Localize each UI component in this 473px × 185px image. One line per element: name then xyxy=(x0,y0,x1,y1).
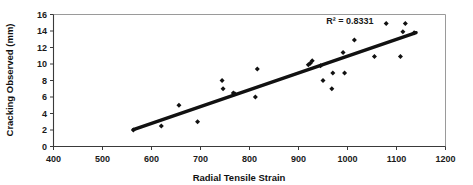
x-tick-label: 500 xyxy=(95,154,110,164)
y-tick-label: 4 xyxy=(42,109,47,119)
r-squared-annotation-group: R² = 0.8331 xyxy=(326,16,373,26)
x-axis-title: Radial Tensile Strain xyxy=(193,172,286,183)
y-tick-label: 2 xyxy=(42,125,47,135)
x-tick-label: 1100 xyxy=(387,154,407,164)
r-squared-label: R² = 0.8331 xyxy=(326,16,373,26)
y-axis-title: Cracking Observed (mm) xyxy=(4,24,15,137)
x-tick-label: 700 xyxy=(193,154,208,164)
x-axis-tick-labels: 400500600700800900100011001200 xyxy=(46,154,456,164)
chart-canvas: 400500600700800900100011001200 024681012… xyxy=(0,0,473,185)
y-tick-label: 16 xyxy=(37,10,47,20)
y-tick-label: 6 xyxy=(42,92,47,102)
y-tick-label: 0 xyxy=(42,142,47,152)
x-tick-label: 600 xyxy=(144,154,159,164)
x-tick-label: 800 xyxy=(242,154,257,164)
y-tick-label: 10 xyxy=(37,59,47,69)
x-tick-label: 900 xyxy=(291,154,306,164)
scatter-chart-figure: 400500600700800900100011001200 024681012… xyxy=(0,0,473,185)
x-tick-label: 1200 xyxy=(435,154,455,164)
y-tick-label: 12 xyxy=(37,43,47,53)
y-tick-label: 8 xyxy=(42,76,47,86)
x-tick-label: 400 xyxy=(46,154,61,164)
y-tick-label: 14 xyxy=(37,26,47,36)
x-tick-label: 1000 xyxy=(337,154,357,164)
